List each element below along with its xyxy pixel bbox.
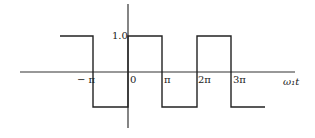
x-tick-3pi: 3π [233, 75, 246, 85]
x-axis-label: ω₁t [283, 77, 299, 87]
x-tick-2pi: 2π [198, 75, 211, 85]
x-tick-pi: π [164, 75, 171, 85]
square-wave-figure: 1.0 − π 0 π 2π 3π ω₁t [0, 0, 315, 138]
y-tick-1: 1.0 [112, 31, 128, 41]
x-tick-zero: 0 [130, 75, 136, 85]
x-tick-neg-pi: − π [77, 75, 95, 85]
chart-canvas [0, 0, 315, 138]
